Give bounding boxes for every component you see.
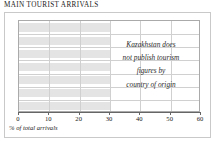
x-tick-label: 60 bbox=[190, 114, 210, 123]
vertical-gridline bbox=[80, 21, 81, 111]
horizontal-gridline bbox=[19, 60, 199, 61]
bar-band bbox=[19, 76, 110, 84]
horizontal-gridline bbox=[19, 74, 199, 75]
bar-row bbox=[19, 50, 199, 58]
x-tick-label: 0 bbox=[8, 114, 28, 123]
bar-row bbox=[19, 76, 199, 84]
bar-row bbox=[19, 23, 199, 31]
bar-band bbox=[19, 37, 110, 45]
vertical-gridline bbox=[171, 21, 172, 111]
x-tick-label: 20 bbox=[69, 114, 89, 123]
page-title: MAIN TOURIST ARRIVALS bbox=[4, 1, 99, 10]
bar-row bbox=[19, 102, 199, 110]
horizontal-gridline bbox=[19, 87, 199, 88]
x-tick-label: 10 bbox=[38, 114, 58, 123]
horizontal-gridline bbox=[19, 34, 199, 35]
bar-band bbox=[19, 23, 110, 31]
vertical-gridline bbox=[49, 21, 50, 111]
bar-band bbox=[19, 63, 110, 71]
bar-row bbox=[19, 89, 199, 97]
bar-band bbox=[19, 89, 110, 97]
chart-figure: MAIN TOURIST ARRIVALS Kazakhstan does no… bbox=[0, 0, 216, 141]
x-tick-label: 50 bbox=[160, 114, 180, 123]
vertical-gridline bbox=[110, 21, 111, 111]
bar-row bbox=[19, 63, 199, 71]
horizontal-gridline bbox=[19, 100, 199, 101]
horizontal-gridline bbox=[19, 47, 199, 48]
bar-row bbox=[19, 37, 199, 45]
bar-band bbox=[19, 50, 110, 58]
plot-area bbox=[18, 20, 200, 112]
x-tick-label: 30 bbox=[99, 114, 119, 123]
x-axis-label: % of total arrivals bbox=[9, 123, 58, 132]
bar-band bbox=[19, 102, 110, 110]
x-tick-label: 40 bbox=[129, 114, 149, 123]
vertical-gridline bbox=[140, 21, 141, 111]
